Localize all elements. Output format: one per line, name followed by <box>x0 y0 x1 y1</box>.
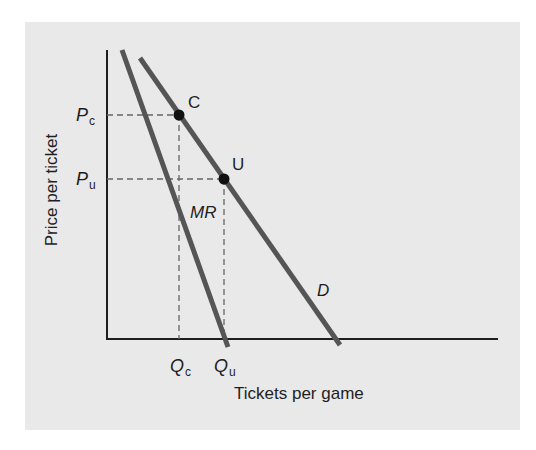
monopoly-pricing-diagram <box>0 0 536 450</box>
y-axis-title: Price per ticket <box>42 134 62 246</box>
qu-subscript: u <box>229 365 236 379</box>
qc-subscript: c <box>185 365 191 379</box>
pu-symbol: P <box>76 169 88 189</box>
quantity-label-qc: Qc <box>170 357 191 375</box>
point-u-label: U <box>232 156 244 173</box>
marginal-revenue-curve <box>122 50 228 347</box>
demand-curve <box>140 58 340 345</box>
qu-symbol: Q <box>214 356 228 376</box>
pu-subscript: u <box>89 178 96 192</box>
pc-symbol: P <box>76 105 88 125</box>
demand-curve-label: D <box>317 282 329 299</box>
point-c <box>174 110 185 121</box>
pc-subscript: c <box>89 114 95 128</box>
price-label-pc: Pc <box>76 106 95 124</box>
qc-symbol: Q <box>170 356 184 376</box>
point-u <box>219 174 230 185</box>
quantity-label-qu: Qu <box>214 357 236 375</box>
mr-curve-label: MR <box>190 204 216 221</box>
point-c-label: C <box>188 94 200 111</box>
x-axis-title: Tickets per game <box>234 385 364 402</box>
price-label-pu: Pu <box>76 170 96 188</box>
